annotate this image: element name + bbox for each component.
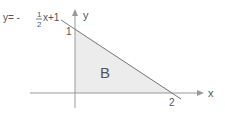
y-intercept-label: 1 (66, 26, 72, 37)
equation-prefix: y= - (3, 12, 20, 23)
y-axis-arrow-icon (72, 9, 78, 16)
x-intercept-label: 2 (169, 97, 175, 108)
equation-suffix: x+1 (43, 12, 60, 23)
equation-denominator: 2 (37, 20, 42, 29)
region-label: B (100, 64, 110, 81)
y-axis-label: y (83, 9, 89, 21)
equation-numerator: 1 (37, 10, 42, 19)
x-axis-arrow-icon (197, 90, 204, 96)
equation-label: y= - 1 2 x+1 (3, 10, 60, 29)
graph: x y 1 2 B y= - 1 2 x+1 (0, 0, 225, 117)
x-axis-label: x (208, 87, 214, 99)
